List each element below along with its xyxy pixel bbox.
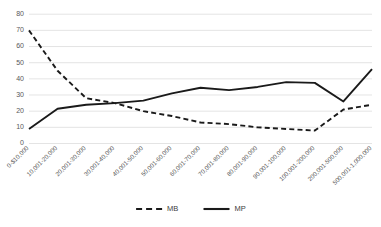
series-line-mp: [29, 69, 372, 129]
series-lines: [29, 30, 372, 130]
y-tick-label: 70: [16, 26, 24, 33]
chart-container: 01020304050607080 0-$10,00010,001-20,000…: [0, 0, 381, 227]
gridlines: [29, 14, 372, 143]
y-tick-label: 80: [16, 10, 24, 17]
y-tick-label: 20: [16, 107, 24, 114]
series-line-mb: [29, 30, 372, 130]
y-axis-tick-labels: 01020304050607080: [16, 10, 24, 146]
chart-legend: MBMP: [136, 204, 246, 213]
y-tick-label: 40: [16, 75, 24, 82]
x-axis-tick-labels: 0-$10,00010,001-20,00020,001-30,00030,00…: [5, 144, 373, 186]
y-tick-label: 60: [16, 42, 24, 49]
y-tick-label: 30: [16, 91, 24, 98]
y-tick-label: 50: [16, 59, 24, 66]
legend-label-mp: MP: [235, 204, 246, 213]
x-tick-label: 0-$10,000: [5, 144, 30, 169]
legend-label-mb: MB: [167, 204, 178, 213]
y-tick-label: 10: [16, 123, 24, 130]
line-chart: 01020304050607080 0-$10,00010,001-20,000…: [0, 0, 381, 227]
